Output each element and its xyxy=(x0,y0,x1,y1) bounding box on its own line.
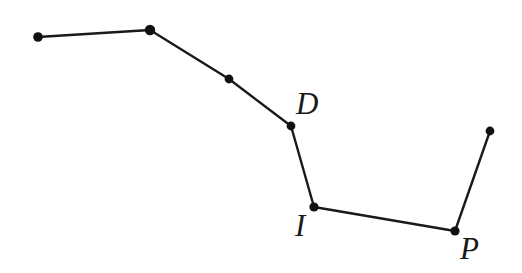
star-node-7 xyxy=(486,127,495,136)
star-node-3 xyxy=(225,75,234,84)
star-node-1 xyxy=(33,32,43,42)
star-node-2 xyxy=(145,25,155,35)
node-label-p: P xyxy=(460,233,479,264)
constellation-figure xyxy=(0,0,522,273)
constellation-polyline xyxy=(38,30,490,231)
star-node-i xyxy=(309,202,318,211)
star-node-p xyxy=(450,226,459,235)
node-group xyxy=(33,25,494,236)
star-node-d xyxy=(287,122,296,131)
node-label-d: D xyxy=(296,88,318,119)
node-label-i: I xyxy=(295,210,305,241)
edge-group xyxy=(38,30,490,231)
constellation-diagram-canvas: D I P xyxy=(0,0,522,273)
